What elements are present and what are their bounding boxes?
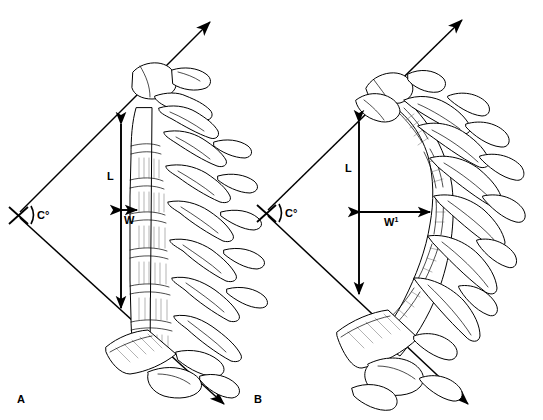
panel-b-width-label: W1 xyxy=(384,216,398,228)
panel-b-width-label-base: W xyxy=(384,216,395,228)
spine-cobb-angle-illustration: C° xyxy=(0,0,543,420)
panel-a-group: C° xyxy=(9,22,267,404)
panel-b-width-label-superscript: 1 xyxy=(394,216,398,223)
panel-a-letter: A xyxy=(17,393,25,405)
panel-b-vertex-marker xyxy=(257,205,276,222)
panel-a-vertex-marker xyxy=(9,207,28,224)
panel-a-spine-drawing xyxy=(106,63,267,398)
panel-b-length-label: L xyxy=(345,162,352,174)
panel-a-width-label: W xyxy=(124,214,135,226)
figure-container: C° xyxy=(0,0,543,420)
panel-b-group: C° xyxy=(257,20,525,410)
panel-b-angle-arc xyxy=(279,204,282,222)
panel-a-length-label: L xyxy=(107,170,114,182)
panel-b-letter: B xyxy=(254,393,262,405)
panel-b-spine-drawing xyxy=(337,70,525,410)
panel-a-angle-arc xyxy=(31,206,34,224)
panel-a-vertex-label: C° xyxy=(37,209,49,221)
panel-b-vertex-label: C° xyxy=(285,207,297,219)
